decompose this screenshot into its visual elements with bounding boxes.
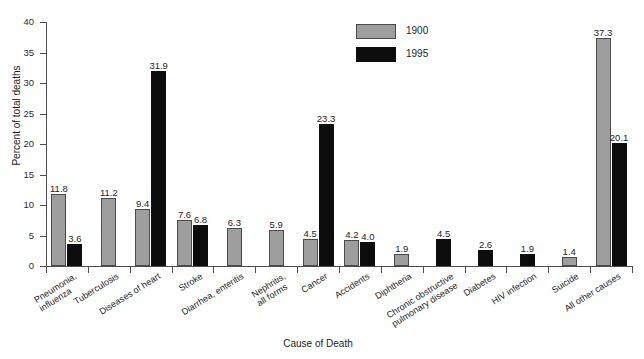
- bar-chart: Percent of total deaths 0510152025303540…: [0, 0, 644, 359]
- y-tick-label: 25: [10, 109, 34, 118]
- bar-1900-6: 4.5: [303, 239, 318, 266]
- category-label-11: HIV infection: [490, 271, 539, 307]
- bar-value-label: 9.4: [136, 199, 149, 209]
- bar-1900-7: 4.2: [344, 240, 359, 266]
- bar-1900-3: 7.6: [177, 220, 192, 266]
- x-tick-mark: [381, 267, 382, 273]
- x-tick-mark: [465, 267, 466, 273]
- category-label-0: Pneumonia,influenza: [32, 271, 83, 313]
- bar-1995-0: 3.6: [67, 244, 82, 266]
- y-tick-label: 35: [10, 48, 34, 57]
- bar-value-label: 4.0: [361, 232, 374, 242]
- x-tick-mark: [548, 267, 549, 273]
- category-label-6: Cancer: [299, 271, 329, 295]
- plot-area: 11.83.611.29.431.97.66.86.35.94.523.34.2…: [46, 22, 632, 266]
- category-label-7: Accidents: [333, 271, 371, 300]
- bar-value-label: 6.8: [194, 215, 207, 225]
- y-tick-label: 40: [10, 17, 34, 26]
- bar-value-label: 4.5: [303, 229, 316, 239]
- x-axis-title: Cause of Death: [228, 338, 408, 349]
- x-tick-mark: [423, 267, 424, 273]
- bar-1900-8: 1.9: [394, 254, 409, 266]
- x-tick-mark: [213, 267, 214, 273]
- bar-value-label: 37.3: [594, 28, 613, 38]
- bar-value-label: 4.2: [345, 230, 358, 240]
- bar-1995-13: 20.1: [612, 143, 627, 266]
- category-label-line: Stroke: [176, 271, 203, 293]
- bar-1995-6: 23.3: [319, 124, 334, 266]
- y-tick-label: 5: [10, 231, 34, 240]
- bar-1900-1: 11.2: [101, 198, 116, 266]
- legend-swatch-1995: [356, 47, 396, 62]
- bar-value-label: 3.6: [68, 234, 81, 244]
- bar-1995-3: 6.8: [193, 225, 208, 266]
- category-label-line: HIV infection: [490, 271, 539, 307]
- bar-1995-7: 4.0: [360, 242, 375, 266]
- bar-value-label: 7.6: [178, 210, 191, 220]
- category-label-10: Diabetes: [461, 271, 496, 298]
- bar-1900-0: 11.8: [51, 194, 66, 266]
- bar-value-label: 23.3: [317, 114, 336, 124]
- x-tick-mark: [632, 267, 633, 273]
- x-tick-mark: [130, 267, 131, 273]
- bar-value-label: 11.8: [50, 184, 68, 194]
- bar-1900-12: 1.4: [562, 257, 577, 266]
- bar-value-label: 1.9: [521, 244, 534, 254]
- bar-value-label: 4.5: [437, 229, 450, 239]
- bar-value-label: 1.9: [395, 244, 408, 254]
- bar-1900-2: 9.4: [135, 209, 150, 266]
- y-tick-label: 20: [10, 139, 34, 148]
- y-tick-label: 0: [10, 261, 34, 270]
- x-tick-mark: [46, 267, 47, 273]
- category-label-line: Suicide: [550, 271, 580, 295]
- x-tick-mark: [590, 267, 591, 273]
- x-tick-mark: [255, 267, 256, 273]
- bar-value-label: 5.9: [270, 220, 283, 230]
- bar-1900-4: 6.3: [227, 228, 242, 266]
- x-tick-mark: [297, 267, 298, 273]
- legend-swatch-1900: [356, 24, 396, 39]
- category-label-line: Accidents: [333, 271, 371, 300]
- bar-1900-13: 37.3: [596, 38, 611, 266]
- x-tick-mark: [88, 267, 89, 273]
- category-label-3: Stroke: [176, 271, 203, 293]
- category-label-5: Nephritis,all forms: [250, 271, 293, 308]
- category-label-12: Suicide: [550, 271, 580, 295]
- y-tick-label: 10: [10, 200, 34, 209]
- y-tick-label: 15: [10, 170, 34, 179]
- category-label-line: Diabetes: [461, 271, 496, 298]
- x-tick-mark: [506, 267, 507, 273]
- bar-value-label: 6.3: [228, 218, 241, 228]
- x-tick-mark: [339, 267, 340, 273]
- legend-label-1995: 1995: [406, 48, 428, 59]
- bar-value-label: 20.1: [610, 133, 629, 143]
- bar-1995-9: 4.5: [436, 239, 451, 266]
- bar-value-label: 11.2: [100, 188, 118, 198]
- y-tick-label: 30: [10, 78, 34, 87]
- bar-1995-11: 1.9: [520, 254, 535, 266]
- bar-value-label: 1.4: [563, 247, 576, 257]
- bar-1900-5: 5.9: [269, 230, 284, 266]
- category-label-line: Cancer: [299, 271, 329, 295]
- bar-value-label: 31.9: [149, 61, 168, 71]
- bar-value-label: 2.6: [479, 240, 492, 250]
- legend-label-1900: 1900: [406, 25, 428, 36]
- bar-1995-10: 2.6: [478, 250, 493, 266]
- bar-1995-2: 31.9: [151, 71, 166, 266]
- x-tick-mark: [172, 267, 173, 273]
